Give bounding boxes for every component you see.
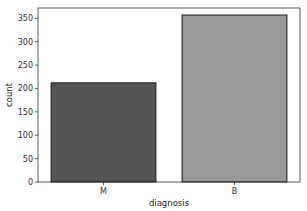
x-tick-label: M: [100, 187, 107, 196]
y-axis: 050100150200250300350: [18, 14, 38, 187]
x-axis-label: diagnosis: [149, 198, 190, 208]
bars: [51, 15, 287, 182]
y-tick-label: 50: [23, 155, 33, 164]
y-tick-label: 300: [18, 38, 33, 47]
y-tick-label: 100: [18, 131, 33, 140]
y-tick-label: 250: [18, 61, 33, 70]
y-tick-label: 0: [28, 178, 33, 187]
y-tick-label: 200: [18, 84, 33, 93]
y-tick-label: 150: [18, 108, 33, 117]
bar-chart: 050100150200250300350 MB diagnosis count: [0, 0, 307, 211]
bar-B: [182, 15, 287, 182]
x-tick-label: B: [232, 187, 238, 196]
y-tick-label: 350: [18, 14, 33, 23]
x-axis: MB: [100, 182, 237, 196]
y-axis-label: count: [4, 82, 14, 107]
bar-M: [51, 83, 156, 182]
